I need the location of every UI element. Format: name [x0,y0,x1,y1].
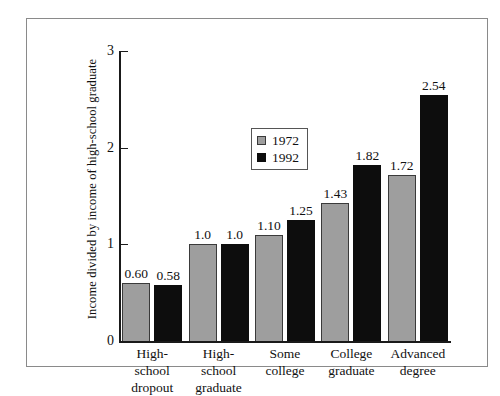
y-tick-label: 3 [94,41,114,61]
x-axis-label: Advanceddegree [385,345,451,379]
legend-item: 1992 [257,149,299,166]
bar-value-label: 1.10 [257,218,281,234]
x-axis-label-line: graduate [318,362,384,379]
legend-label: 1992 [272,149,299,166]
bar: 1.10 [255,235,283,341]
x-axis-label-line: degree [385,362,451,379]
bar-value-label: 2.54 [422,78,446,94]
chart-legend: 1972 1992 [251,128,308,170]
bar-value-label: 1.82 [356,148,380,164]
bars-layer: 0.600.581.01.01.101.251.431.821.722.54 [119,51,451,341]
y-tick-label: 1 [94,234,114,254]
bar-value-label: 1.72 [390,158,414,174]
x-axis-label-line: dropout [119,379,185,396]
x-axis-line [119,341,451,343]
bar-group: 0.600.58 [119,51,185,341]
bar: 1.0 [221,244,249,341]
y-tick-label: 0 [94,331,114,351]
x-axis-label-line: High-school [185,345,251,379]
bar-group: 1.01.0 [185,51,251,341]
bar-group: 1.431.82 [318,51,384,341]
y-axis-title: Income divided by income of high-school … [83,39,101,339]
x-axis-label-line: Some [252,345,318,362]
plot-area: 0123 0.600.581.01.01.101.251.431.821.722… [119,51,451,341]
x-axis-label-line: College [318,345,384,362]
x-axis-label: Collegegraduate [318,345,384,379]
gray-swatch-icon [257,136,266,145]
black-swatch-icon [257,153,266,162]
bar-value-label: 1.25 [289,203,313,219]
y-tick-mark [121,341,128,342]
bar-value-label: 0.60 [124,266,148,282]
x-axis-label-line: college [252,362,318,379]
x-axis-label: High-schooldropout [119,345,185,396]
legend-label: 1972 [272,132,299,149]
bar: 1.43 [321,203,349,341]
x-axis-category-labels: High-schooldropoutHigh-schoolgraduateSom… [119,345,451,385]
bar: 0.58 [154,285,182,341]
x-axis-label-line: Advanced [385,345,451,362]
x-axis-label: High-schoolgraduate [185,345,251,396]
bar-group: 1.722.54 [385,51,451,341]
x-axis-label-line: graduate [185,379,251,396]
bar: 2.54 [420,95,448,341]
bar-group: 1.101.25 [252,51,318,341]
y-tick: 0 [119,341,128,342]
y-tick-label: 2 [94,138,114,158]
bar-value-label: 1.0 [226,227,243,243]
bar-value-label: 1.0 [194,227,211,243]
x-axis-label: Somecollege [252,345,318,379]
bar: 1.82 [353,165,381,341]
legend-item: 1972 [257,132,299,149]
bar: 0.60 [122,283,150,341]
bar-value-label: 1.43 [324,186,348,202]
bar: 1.0 [189,244,217,341]
figure-frame: Income divided by income of high-school … [26,18,488,367]
x-axis-label-line: High-school [119,345,185,379]
bar-value-label: 0.58 [156,268,180,284]
bar: 1.72 [388,175,416,341]
bar: 1.25 [287,220,315,341]
